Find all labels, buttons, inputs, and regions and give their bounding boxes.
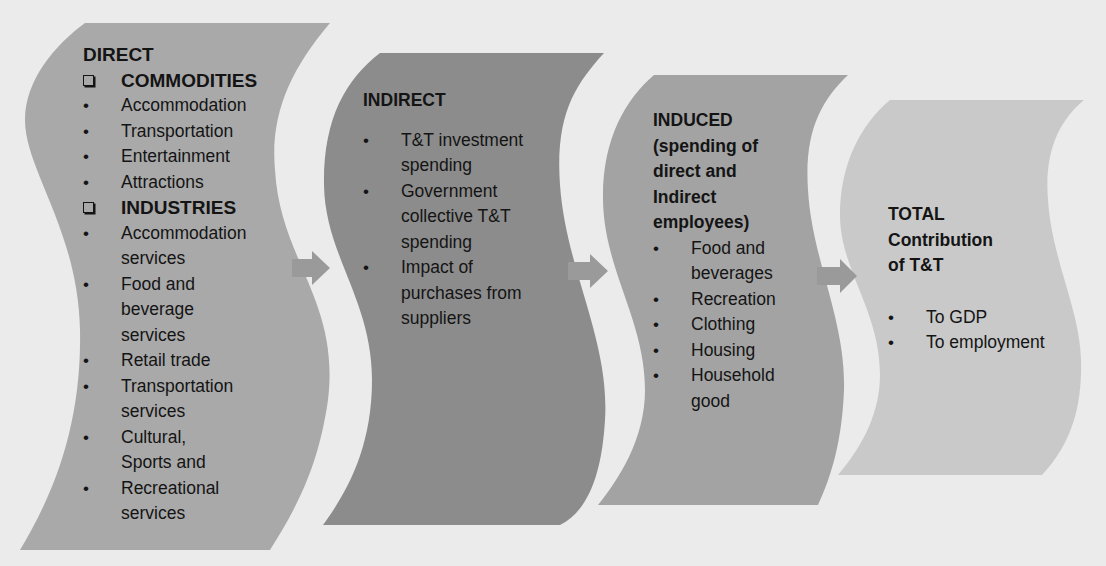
list-item: •Attractions <box>83 170 283 196</box>
list-item: •T&T investment spending <box>363 128 553 179</box>
list-item: •Entertainment <box>83 144 283 170</box>
commodities-list: •Accommodation •Transportation •Entertai… <box>83 93 283 195</box>
induced-panel: INDUCED (spending of direct and Indirect… <box>653 108 793 414</box>
induced-list: •Food and beverages •Recreation •Clothin… <box>653 236 793 415</box>
list-item: •Impact of purchases from suppliers <box>363 255 553 332</box>
checkbox-square-icon <box>83 68 121 94</box>
indirect-panel: INDIRECT •T&T investment spending •Gover… <box>363 88 553 332</box>
list-item: •Food and beverages <box>653 236 793 287</box>
industries-list: •Accommodation services •Food and bevera… <box>83 221 241 527</box>
total-panel: TOTAL Contribution of T&T •To GDP •To em… <box>888 202 1078 356</box>
list-item: •Housing <box>653 338 793 364</box>
indirect-title: INDIRECT <box>363 88 553 114</box>
list-item: •Household good <box>653 363 793 414</box>
commodities-heading: COMMODITIES <box>83 68 283 94</box>
list-item: •Accommodation services <box>83 221 241 272</box>
induced-title: INDUCED (spending of direct and Indirect… <box>653 108 778 236</box>
diagram-canvas: DIRECT COMMODITIES •Accommodation •Trans… <box>0 0 1106 566</box>
list-item: •Retail trade <box>83 348 241 374</box>
list-item: •Transportation <box>83 119 283 145</box>
list-item: •Clothing <box>653 312 793 338</box>
list-item: •Accommodation <box>83 93 283 119</box>
list-item: •Recreation <box>653 287 793 313</box>
list-item: •Transportation services <box>83 374 241 425</box>
list-item: •Recreational services <box>83 476 241 527</box>
indirect-list: •T&T investment spending •Government col… <box>363 128 553 332</box>
total-list: •To GDP •To employment <box>888 305 1078 356</box>
list-item: •Food and beverage services <box>83 272 241 349</box>
direct-title: DIRECT <box>83 42 283 68</box>
total-title: TOTAL Contribution of T&T <box>888 202 1013 279</box>
list-item: •Government collective T&T spending <box>363 179 553 256</box>
list-item: •To employment <box>888 330 1078 356</box>
list-item: •Cultural, Sports and <box>83 425 241 476</box>
industries-heading: INDUSTRIES <box>83 195 283 221</box>
direct-panel: DIRECT COMMODITIES •Accommodation •Trans… <box>83 42 283 527</box>
checkbox-square-icon <box>83 195 121 221</box>
list-item: •To GDP <box>888 305 1078 331</box>
